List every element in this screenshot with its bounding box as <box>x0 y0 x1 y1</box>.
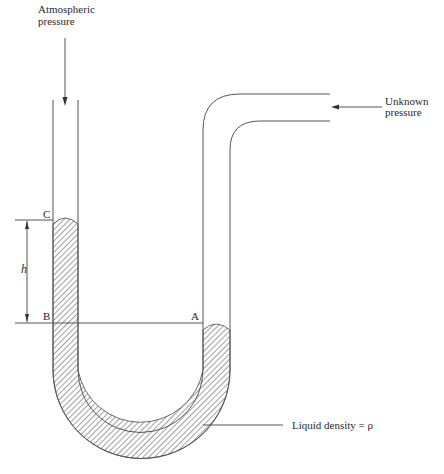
point-c-label: C <box>43 208 50 220</box>
point-a-label: A <box>191 310 199 322</box>
atmospheric-label-2: pressure <box>38 15 75 27</box>
liquid-density-label: Liquid density = ρ <box>292 419 374 431</box>
arrow-head-icon <box>63 97 68 106</box>
arrow-head-icon <box>25 221 29 229</box>
unknown-label-2: pressure <box>385 106 422 118</box>
arrow-head-icon <box>331 105 339 110</box>
arrow-head-icon <box>25 314 29 322</box>
point-b-label: B <box>43 310 50 322</box>
manometer-diagram: Atmospheric pressure Unknown pressure C … <box>0 0 444 474</box>
right-tube-outer-wall <box>230 121 330 370</box>
atmospheric-label-1: Atmospheric <box>38 3 95 15</box>
height-label: h <box>21 262 27 276</box>
